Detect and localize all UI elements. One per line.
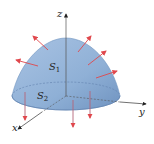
y-axis-label: y — [138, 106, 145, 117]
x-axis-label: x — [12, 122, 18, 133]
paraboloid-diagram: z y x S1 S2 — [0, 0, 154, 144]
z-axis-label: z — [56, 8, 63, 19]
